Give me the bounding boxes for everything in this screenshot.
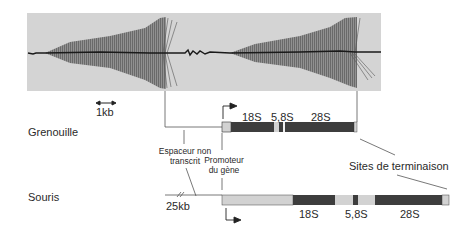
- promoter-annotation: Promoteur du gène: [201, 155, 247, 175]
- mouse-species-label: Souris: [28, 191, 59, 203]
- frog-28s-label: 28S: [311, 111, 331, 123]
- scale-bar-arrow: [96, 101, 116, 105]
- mouse-promoter-arrow: [226, 208, 241, 223]
- mouse-28s-label: 28S: [400, 208, 420, 220]
- mouse-spacer-length-label: 25kb: [166, 200, 190, 212]
- promoter-line-1: Promoteur: [201, 155, 247, 165]
- mouse-5-8s-label: 5,8S: [345, 208, 368, 220]
- diagram-canvas: [0, 0, 473, 234]
- frog-5-8s-label: 5,8S: [271, 111, 294, 123]
- spacer-pointer-mouse: [186, 168, 196, 196]
- frog-species-label: Grenouille: [28, 126, 78, 138]
- mouse-rdna-bar: [222, 195, 449, 205]
- frog-18s-label: 18S: [242, 111, 262, 123]
- frog-promoter-arrow: [223, 103, 237, 119]
- promoter-line-2: du gène: [201, 165, 247, 175]
- mouse-spacer-line: [165, 192, 222, 197]
- termination-sites-label: Sites de terminaison: [349, 160, 449, 172]
- frog-rdna-bar: [222, 122, 357, 132]
- scale-bar-label: 1kb: [96, 106, 114, 118]
- mouse-18s-label: 18S: [299, 208, 319, 220]
